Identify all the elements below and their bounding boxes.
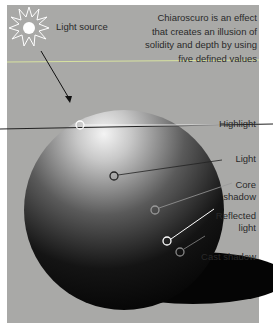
arrow-head-icon — [65, 96, 72, 103]
label-line: Core — [200, 179, 256, 191]
sun-icon — [9, 7, 49, 46]
label-light-source: Light source — [56, 21, 108, 33]
label-line: Reflected — [200, 210, 256, 222]
label-cast-shadow: Cast shadow — [190, 251, 256, 263]
label-highlight: Highlight — [200, 118, 256, 130]
description-text: Chiaroscuro is an effect that creates an… — [140, 11, 257, 65]
label-line: shadow — [200, 191, 256, 203]
label-line: light — [200, 222, 256, 234]
description-line: Chiaroscuro is an effect — [140, 11, 257, 25]
description-line: five defined values — [140, 52, 257, 66]
description-line: solidity and depth by using — [140, 38, 257, 52]
label-light: Light — [200, 153, 256, 165]
arrow-line — [41, 51, 70, 100]
description-line: that creates an illusion of — [140, 25, 257, 39]
label-reflected-light: Reflected light — [200, 210, 256, 234]
sphere — [24, 110, 224, 310]
label-core-shadow: Core shadow — [200, 179, 256, 203]
